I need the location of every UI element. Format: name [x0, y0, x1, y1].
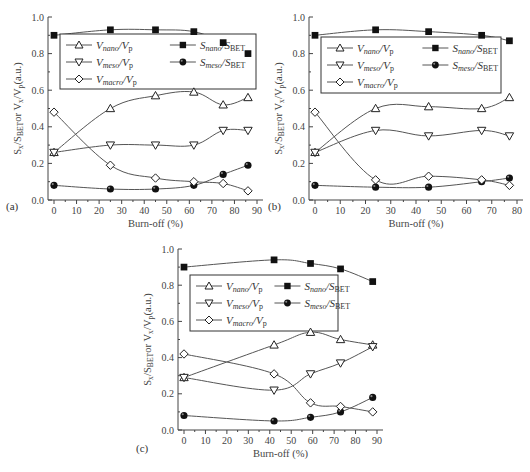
square-marker-icon: [180, 42, 186, 48]
legend-sub: meso: [205, 61, 221, 70]
x-tick-label: 50: [162, 205, 172, 216]
square-marker-icon: [284, 283, 290, 289]
triangle-down-marker-icon: [306, 371, 314, 378]
circle-marker-icon: [50, 182, 57, 189]
legend-sub: meso: [233, 302, 249, 311]
legend-den: /S: [473, 59, 483, 71]
triangle-down-marker-icon: [424, 133, 432, 140]
legend-sub: nano: [233, 285, 249, 294]
x-tick-label: 40: [265, 435, 275, 446]
legend-densub: BET: [335, 285, 350, 294]
panel-label: (a): [6, 200, 19, 213]
y-axis-title-part: /S: [142, 367, 153, 376]
legend-densub: p: [390, 64, 394, 73]
legend-densub: BET: [335, 302, 350, 311]
x-tick-label: 60: [308, 435, 318, 446]
y-axis-title-part: /S: [273, 136, 284, 145]
y-axis-title-part: BET: [16, 122, 25, 137]
circle-highlight-icon: [108, 187, 110, 189]
figure-canvas: 0.00.20.40.60.81.00102030405060708090Bur…: [0, 0, 530, 472]
square-marker-icon: [152, 26, 159, 33]
y-tick-label: 0.4: [32, 121, 45, 132]
series-line: [184, 332, 373, 377]
x-tick-label: 70: [207, 205, 217, 216]
y-axis-title-part: /V: [273, 88, 284, 99]
y-axis-title-part: (a.u.): [12, 62, 24, 85]
circle-highlight-icon: [246, 163, 248, 165]
diamond-marker-icon: [106, 161, 114, 169]
legend-den: /S: [473, 42, 483, 54]
circle-marker-icon: [270, 417, 277, 424]
circle-marker-icon: [179, 59, 186, 66]
legend-sub: meso: [458, 64, 474, 73]
legend-densub: p: [129, 44, 133, 53]
x-tick-label: 20: [94, 205, 104, 216]
y-axis-title-part: /S: [12, 136, 23, 145]
y-tick-label: 1.0: [32, 12, 45, 23]
legend-den: /S: [325, 297, 335, 309]
legend: Vnano/VpSnano/SBETVmeso/VpSmeso/SBETVmac…: [190, 275, 350, 331]
y-tick-label: 0.0: [32, 195, 45, 206]
y-tick-label: 0.2: [293, 158, 306, 169]
circle-marker-icon: [220, 171, 227, 178]
series-line: [184, 347, 373, 390]
circle-marker-icon: [369, 394, 376, 401]
y-axis-title-part: or V: [12, 103, 23, 122]
x-tick-label: 0: [313, 205, 318, 216]
diamond-marker-icon: [371, 176, 379, 184]
legend-densub: BET: [230, 44, 245, 53]
legend-densub: p: [263, 319, 267, 328]
triangle-up-marker-icon: [505, 93, 513, 100]
legend-sub: meso: [310, 302, 326, 311]
legend-sub: macro: [233, 319, 253, 328]
circle-highlight-icon: [181, 60, 183, 62]
x-tick-label: 50: [436, 205, 446, 216]
y-tick-label: 0.2: [32, 158, 45, 169]
panel-label: (b): [268, 200, 281, 213]
diamond-marker-icon: [244, 187, 252, 195]
y-axis-title-part: (a.u.): [142, 293, 154, 316]
y-tick-label: 0.8: [162, 280, 175, 291]
y-tick-label: 0.8: [293, 48, 306, 59]
panel-a-chart: 0.00.20.40.60.81.00102030405060708090Bur…: [6, 12, 263, 231]
diamond-marker-icon: [336, 402, 344, 410]
x-axis-title: Burn-off (%): [253, 448, 308, 460]
x-tick-label: 20: [222, 435, 232, 446]
x-tick-label: 90: [372, 435, 382, 446]
legend-sub: nano: [205, 44, 221, 53]
diamond-marker-icon: [306, 399, 314, 407]
circle-highlight-icon: [433, 63, 435, 65]
y-tick-label: 0.4: [162, 352, 175, 363]
y-tick-label: 0.8: [32, 48, 45, 59]
circle-highlight-icon: [370, 395, 372, 397]
legend-sub: macro: [103, 78, 123, 87]
series-line: [54, 91, 248, 152]
y-tick-label: 1.0: [162, 244, 175, 255]
y-axis-title-part: (a.u.): [273, 62, 285, 85]
square-marker-icon: [372, 26, 379, 33]
legend-den: /S: [221, 56, 231, 68]
square-marker-icon: [506, 37, 513, 44]
circle-marker-icon: [425, 184, 432, 191]
legend-sub: meso: [103, 61, 119, 70]
legend-densub: p: [129, 61, 133, 70]
square-marker-icon: [478, 32, 485, 39]
x-tick-label: 70: [487, 205, 497, 216]
y-axis-title: Sx /SBET or Vx /Vp (a.u.): [12, 62, 25, 155]
x-tick-label: 90: [252, 205, 262, 216]
y-axis-title-part: BET: [146, 353, 155, 368]
legend: Vnano/VpSnano/SBETVmeso/VpSmeso/SBETVmac…: [60, 34, 256, 89]
circle-highlight-icon: [308, 415, 310, 417]
legend-densub: BET: [230, 61, 245, 70]
legend-densub: p: [259, 302, 263, 311]
circle-marker-icon: [311, 182, 318, 189]
circle-marker-icon: [152, 185, 159, 192]
x-tick-label: 80: [229, 205, 239, 216]
y-tick-label: 0.6: [162, 316, 175, 327]
legend: Vnano/VpSnano/SBETVmeso/VpSmeso/SBETVmac…: [321, 37, 501, 93]
y-axis-title-part: or V: [273, 103, 284, 122]
x-tick-label: 80: [512, 205, 522, 216]
legend-sub: nano: [103, 44, 119, 53]
x-tick-label: 20: [361, 205, 371, 216]
y-axis-title-part: /V: [142, 319, 153, 330]
